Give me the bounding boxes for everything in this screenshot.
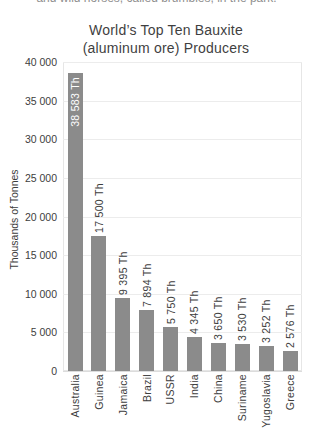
y-tick-label: 20 000	[0, 211, 57, 223]
bar	[163, 327, 178, 371]
y-tick-label: 10 000	[0, 288, 57, 300]
x-tick-label: Jamaica	[117, 374, 129, 415]
bar	[187, 337, 202, 371]
y-tick-label: 40 000	[0, 56, 57, 68]
gridline	[63, 371, 302, 372]
bar-value-label: 2 576 Th	[284, 304, 296, 348]
bar-value-label: 7 894 Th	[141, 263, 153, 307]
bar	[115, 298, 130, 371]
gridline	[63, 139, 302, 140]
y-tick-label: 30 000	[0, 133, 57, 145]
bar-value-label: 3 252 Th	[260, 299, 272, 343]
gridline	[63, 101, 302, 102]
bar	[283, 351, 298, 371]
x-tick-label: Suriname	[236, 374, 248, 421]
bar	[139, 310, 154, 371]
clipped-top-text: and wild horses, called brumbies, in the…	[0, 0, 313, 5]
y-tick-label: 0	[0, 365, 57, 377]
bar-value-label: 3 530 Th	[236, 297, 248, 341]
bar-value-label: 3 650 Th	[212, 296, 224, 340]
bar	[91, 236, 106, 371]
x-tick-label: Australia	[69, 374, 81, 418]
chart-title: World’s Top Ten Bauxite (aluminum ore) P…	[18, 21, 314, 57]
y-tick-label: 25 000	[0, 172, 57, 184]
y-tick-label: 35 000	[0, 95, 57, 107]
gridline	[63, 62, 302, 63]
bar	[235, 344, 250, 371]
y-tick-label: 5 000	[0, 326, 57, 338]
x-tick-label: China	[212, 374, 224, 403]
y-tick-label: 15 000	[0, 249, 57, 261]
bar-value-label: 38 583 Th	[69, 77, 81, 127]
bar-value-label: 9 395 Th	[117, 252, 129, 296]
bar-value-label: 4 345 Th	[188, 291, 200, 335]
bar	[211, 343, 226, 371]
bar	[259, 346, 274, 371]
bar-value-label: 17 500 Th	[93, 183, 105, 233]
x-tick-label: Yugoslavia	[260, 374, 272, 428]
x-tick-label: USSR	[165, 374, 177, 404]
bar-value-label: 5 750 Th	[165, 280, 177, 324]
x-tick-label: Greece	[284, 374, 296, 410]
x-tick-label: Brazil	[141, 374, 153, 402]
x-tick-label: Guinea	[93, 374, 105, 410]
gridline	[63, 178, 302, 179]
x-tick-label: India	[188, 374, 200, 398]
